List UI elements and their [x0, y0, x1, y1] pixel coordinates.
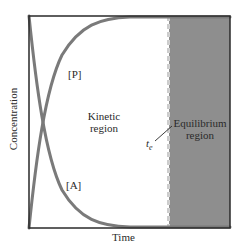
te-label: te [146, 137, 153, 154]
equilibrium-region-label-line2: region [167, 129, 233, 141]
product-label: [P] [68, 68, 81, 80]
equilibrium-region-label-line1: Equilibrium [167, 117, 233, 129]
te-label-subscript: e [149, 143, 153, 152]
kinetic-region-label: Kinetic region [74, 110, 134, 134]
equilibrium-region-label: Equilibrium region [167, 117, 233, 141]
reactant-label: [A] [66, 179, 81, 191]
y-axis-label: Concentration [7, 74, 19, 164]
kinetic-region-label-line2: region [74, 122, 134, 134]
x-axis-label: Time [112, 231, 135, 243]
kinetic-region-label-line1: Kinetic [74, 110, 134, 122]
